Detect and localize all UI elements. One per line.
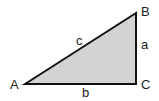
side-label-b: b xyxy=(82,85,89,100)
right-triangle-diagram: A B C c a b xyxy=(0,0,159,101)
vertex-label-a: A xyxy=(10,77,19,92)
vertex-label-b: B xyxy=(141,4,150,19)
side-label-a: a xyxy=(141,37,149,52)
vertex-label-c: C xyxy=(141,77,150,92)
triangle-shape xyxy=(25,13,136,84)
side-label-c: c xyxy=(76,33,83,48)
